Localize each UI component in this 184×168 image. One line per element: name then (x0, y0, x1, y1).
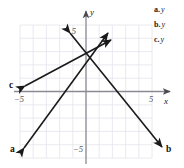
line-a (24, 33, 108, 148)
list-item[interactable]: a.y (154, 2, 184, 17)
y-axis-label: y (89, 7, 94, 17)
x-tick-negative-5: −5 (14, 94, 24, 104)
line-label-a: a (10, 144, 15, 154)
choice-text-a: y (160, 5, 165, 14)
list-item[interactable]: b.y (154, 17, 184, 32)
line-b (70, 33, 162, 147)
choice-key-c: c. (154, 35, 160, 44)
choice-text-c: y (160, 35, 165, 44)
y-tick-positive-5: 5 (72, 26, 76, 36)
axis-lines (14, 11, 170, 164)
list-item[interactable]: c.y (154, 32, 184, 47)
y-tick-negative-5: −5 (73, 144, 83, 154)
x-axis-label: x (163, 96, 168, 106)
choice-text-b: y (160, 20, 165, 29)
graph-figure: y x 5 −5 −5 5 c a b a.y b.y c.y (0, 0, 184, 168)
answer-choices-list: a.y b.y c.y (154, 0, 184, 50)
line-label-b: b (166, 144, 171, 154)
x-tick-positive-5: 5 (149, 94, 153, 104)
line-label-c: c (9, 80, 13, 90)
